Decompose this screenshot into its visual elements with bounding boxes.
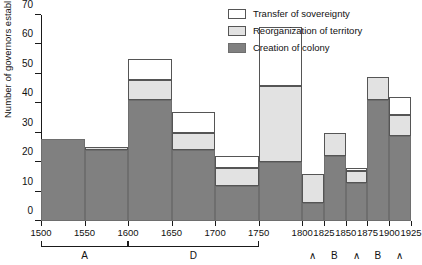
x-tick-label-1650: 1650 [161, 227, 182, 238]
legend-label-transfer: Transfer of sovereignty [253, 8, 350, 19]
bar-segment-create-1700-1750 [215, 186, 259, 221]
bar-1850-1875 [346, 168, 368, 221]
y-tick-label-40: 40 [22, 88, 33, 98]
bar-segment-create-1750-1800 [259, 162, 303, 221]
bar-segment-transfer-1650-1700 [172, 112, 216, 133]
x-tick-1550 [85, 221, 86, 226]
bar-segment-create-1550-1600 [85, 150, 129, 221]
bar-segment-transfer-1900-1925 [389, 97, 411, 115]
bar-1700-1750 [215, 156, 259, 221]
y-tick-20 [35, 161, 41, 162]
period-label-D: D [190, 250, 197, 261]
x-tick-1875 [367, 221, 368, 226]
y-tick-50 [35, 73, 41, 74]
period-marker-1812: ∧ [309, 250, 316, 261]
period-label-A: A [81, 250, 88, 261]
legend-label-create: Creation of colony [253, 42, 330, 53]
bar-1600-1650 [128, 59, 172, 221]
x-tick-label-1900: 1900 [379, 227, 400, 238]
legend-item-create: Creation of colony [228, 40, 362, 55]
x-tick-1800 [302, 221, 303, 226]
y-tick-label-50: 50 [22, 59, 33, 69]
y-tick-label-30: 30 [22, 118, 33, 128]
x-tick-1700 [215, 221, 216, 226]
bar-segment-reorg-1600-1650 [128, 80, 172, 101]
bar-segment-reorg-1825-1850 [324, 133, 346, 157]
x-tick-label-1825: 1825 [313, 227, 334, 238]
period-marker-1862: ∧ [353, 250, 360, 261]
x-tick-1650 [172, 221, 173, 226]
period-marker-1837: B [331, 250, 338, 261]
x-tick-label-1500: 1500 [30, 227, 51, 238]
bar-segment-transfer-1600-1650 [128, 59, 172, 80]
bar-segment-create-1600-1650 [128, 100, 172, 221]
bar-segment-create-1650-1700 [172, 150, 216, 221]
legend-swatch-create [228, 43, 246, 53]
y-tick-label-10: 10 [22, 177, 33, 187]
x-tick-1750 [259, 221, 260, 226]
x-tick-1900 [389, 221, 390, 226]
x-tick-1825 [324, 221, 325, 226]
x-tick-1850 [346, 221, 347, 226]
bar-1825-1850 [324, 133, 346, 221]
chart-legend: Transfer of sovereigntyReorganization of… [228, 6, 362, 57]
bar-segment-reorg-1750-1800 [259, 86, 303, 163]
period-bracket-A [41, 241, 128, 247]
bar-segment-create-1500-1550 [41, 139, 85, 221]
bar-1550-1600 [85, 147, 129, 221]
bar-segment-create-1900-1925 [389, 136, 411, 221]
legend-label-reorg: Reorganization of territory [253, 25, 362, 36]
legend-swatch-transfer [228, 9, 246, 19]
x-tick-1600 [128, 221, 129, 226]
y-tick-label-70: 70 [22, 0, 33, 10]
bar-segment-reorg-1650-1700 [172, 133, 216, 151]
y-tick-label-60: 60 [22, 29, 33, 39]
bar-1875-1900 [367, 77, 389, 221]
x-tick-label-1925: 1925 [400, 227, 421, 238]
x-tick-1925 [411, 221, 412, 226]
x-tick-label-1800: 1800 [292, 227, 313, 238]
period-marker-1912: ∧ [396, 250, 403, 261]
y-tick-10 [35, 191, 41, 192]
y-tick-label-0: 0 [27, 206, 33, 216]
x-tick-label-1600: 1600 [117, 227, 138, 238]
x-tick-label-1850: 1850 [335, 227, 356, 238]
x-tick-label-1750: 1750 [248, 227, 269, 238]
x-tick-1500 [41, 221, 42, 226]
bar-segment-reorg-1700-1750 [215, 168, 259, 186]
bar-segment-create-1875-1900 [367, 100, 389, 221]
bar-1800-1825 [302, 174, 324, 221]
bar-segment-create-1825-1850 [324, 156, 346, 221]
period-bracket-D [128, 241, 259, 247]
y-tick-60 [35, 43, 41, 44]
legend-swatch-reorg [228, 26, 246, 36]
y-tick-30 [35, 132, 41, 133]
period-marker-1887: B [375, 250, 382, 261]
bar-segment-reorg-1900-1925 [389, 115, 411, 136]
bar-1900-1925 [389, 97, 411, 221]
legend-item-transfer: Transfer of sovereignty [228, 6, 362, 21]
y-tick-label-20: 20 [22, 147, 33, 157]
x-tick-label-1550: 1550 [74, 227, 95, 238]
bar-segment-reorg-1875-1900 [367, 77, 389, 101]
bar-segment-transfer-1850-1875 [346, 168, 368, 171]
legend-item-reorg: Reorganization of territory [228, 23, 362, 38]
bar-segment-reorg-1850-1875 [346, 171, 368, 183]
x-tick-label-1700: 1700 [205, 227, 226, 238]
x-tick-label-1875: 1875 [357, 227, 378, 238]
y-axis-title: Number of governors established [2, 0, 13, 118]
bar-segment-transfer-1700-1750 [215, 156, 259, 168]
bar-segment-reorg-1550-1600 [85, 147, 129, 150]
bar-1650-1700 [172, 112, 216, 221]
bar-segment-create-1800-1825 [302, 203, 324, 221]
y-tick-70 [35, 14, 41, 15]
y-tick-40 [35, 102, 41, 103]
bar-segment-create-1850-1875 [346, 183, 368, 221]
bar-segment-reorg-1800-1825 [302, 174, 324, 203]
bar-1500-1550 [41, 139, 85, 221]
